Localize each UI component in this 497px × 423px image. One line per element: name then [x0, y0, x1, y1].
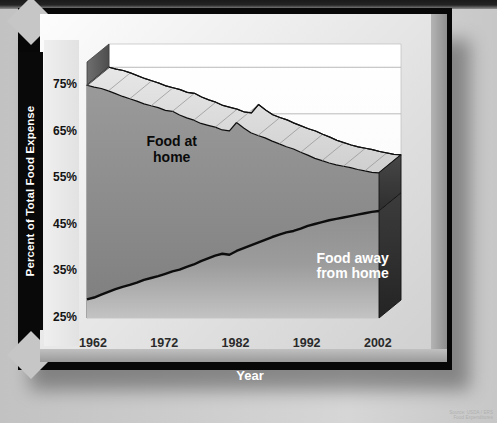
y-axis-tick-label: 75% [44, 77, 77, 91]
y-axis-tick-label: 35% [44, 263, 77, 277]
series-label-food-at-home: Food at home [124, 134, 220, 165]
plot-area [79, 26, 439, 346]
y-axis-tick-label: 25% [44, 310, 77, 324]
source-credit-line2: Food Expenditures [449, 415, 493, 421]
y-axis-tick-label: 45% [44, 217, 77, 231]
series-label-food-away-from-home: Food away from home [297, 251, 409, 282]
y-axis-tick-label: 55% [44, 170, 77, 184]
plot-svg [79, 26, 439, 356]
y-axis-title: Percent of Total Food Expense [18, 52, 43, 330]
y-axis-title-text: Percent of Total Food Expense [25, 106, 37, 277]
y-axis-tick-label: 65% [44, 124, 77, 138]
x-axis-title: Year [120, 368, 380, 383]
chart-figure: Percent of Total Food Expense 75%65%55%4… [0, 0, 497, 423]
x-axis-tick-label: 1972 [150, 336, 178, 350]
x-axis-tick-label: 1962 [79, 336, 107, 350]
x-axis-tick-label: 2002 [364, 336, 392, 350]
x-axis-tick-label: 1982 [222, 336, 250, 350]
x-axis-tick-label: 1992 [293, 336, 321, 350]
source-credit: Source: USDA / ERS Food Expenditures [449, 410, 493, 421]
